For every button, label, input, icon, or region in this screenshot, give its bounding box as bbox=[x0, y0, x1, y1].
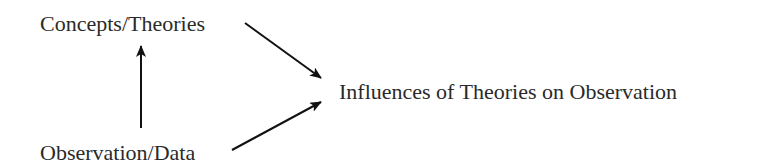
arrow-observation-to-influences bbox=[232, 102, 321, 150]
arrow-concepts-to-influences bbox=[245, 23, 321, 78]
arrows-layer bbox=[0, 0, 766, 167]
